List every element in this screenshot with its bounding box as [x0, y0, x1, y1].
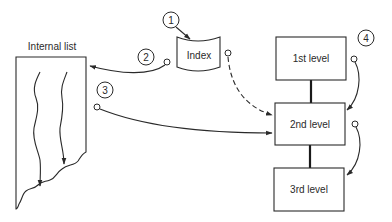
step-4: 4: [347, 30, 374, 175]
level-3-label: 3rd level: [290, 184, 328, 195]
internal-list-sheet: [16, 57, 86, 209]
level-2-to-3-arrow: [347, 127, 360, 175]
step-4-number: 4: [363, 33, 369, 44]
step-3: 3: [94, 82, 272, 133]
step-3-origin-dot: [94, 104, 100, 110]
step-2-origin-dot: [164, 59, 170, 65]
internal-list-label: Internal list: [28, 41, 77, 52]
level-1-label: 1st level: [293, 53, 330, 64]
level-hierarchy: 1st level 2nd level 3rd level: [274, 37, 346, 211]
step-2: 2: [90, 49, 170, 73]
level-1-to-2-arrow: [347, 62, 359, 110]
index-label: Index: [187, 50, 211, 61]
level-2-origin-dot: [352, 121, 358, 127]
index-dashed-arrow: [228, 57, 272, 115]
level-1-origin-dot: [351, 56, 357, 62]
step-3-number: 3: [102, 85, 108, 96]
index-lookup-diagram: Internal list Index 1 2 3 1st leve: [0, 0, 392, 222]
step-2-number: 2: [143, 52, 149, 63]
step-2-arrow: [90, 65, 165, 73]
internal-list: Internal list: [16, 41, 86, 209]
step-1: 1: [163, 12, 190, 39]
step-3-arrow: [100, 109, 272, 133]
index-to-2nd-level: [225, 50, 272, 115]
level-2-label: 2nd level: [290, 119, 330, 130]
index-origin-dot: [225, 50, 231, 56]
index-node: Index: [177, 37, 220, 71]
step-1-number: 1: [168, 15, 174, 26]
